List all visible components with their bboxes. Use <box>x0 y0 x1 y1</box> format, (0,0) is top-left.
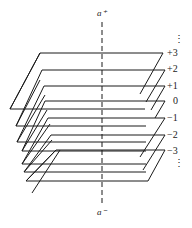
sheet-label-0: 0 <box>173 96 178 106</box>
sheet-label-minus-1: −1 <box>167 113 178 123</box>
sheet-label-plus-3: +3 <box>167 48 178 58</box>
sheet-label-minus-3: −3 <box>167 146 178 156</box>
sheet-minus-3 <box>26 150 165 181</box>
sheet-minus-2 <box>24 135 165 172</box>
helical-sheets-diagram <box>0 0 192 228</box>
sheet-label-plus-2: +2 <box>167 64 178 74</box>
sheet-minus-1 <box>22 118 165 164</box>
sheet-label-minus-2: −2 <box>167 130 178 140</box>
axis-bottom-label: a⁻ <box>97 208 107 217</box>
axis-top-label: a⁺ <box>97 9 107 18</box>
sheets <box>10 53 165 193</box>
continuation-top: ⋮ <box>174 34 184 44</box>
continuation-bottom: ⋮ <box>174 158 184 168</box>
sheet-label-plus-1: +1 <box>167 81 178 91</box>
